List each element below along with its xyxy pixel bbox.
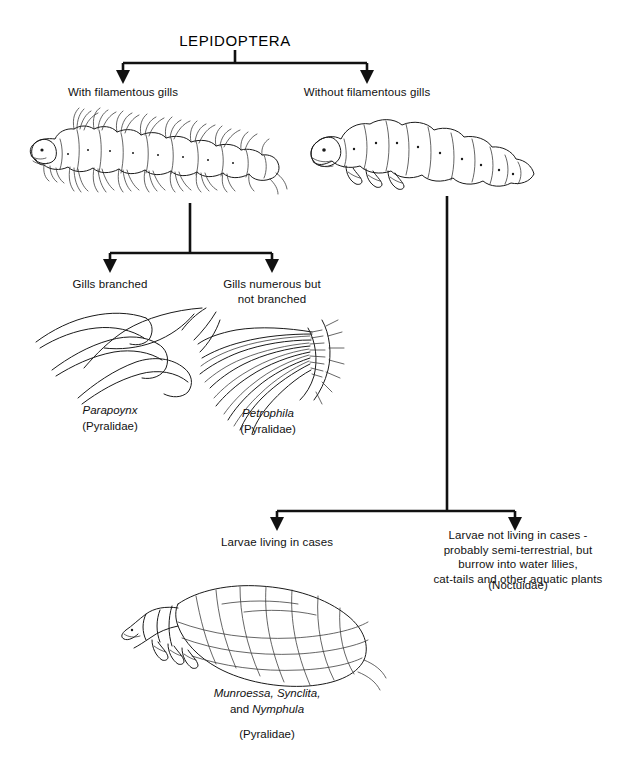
- arrowhead-right-1: [360, 70, 374, 84]
- larva-in-leaf-case-illustration: [122, 586, 386, 690]
- genera-munroessa-synclita: Munroessa, Synclita,: [214, 687, 321, 699]
- arrowhead-right-2: [265, 259, 279, 273]
- caption-parapoynx: Parapoynx (Pyralidae): [42, 403, 178, 434]
- page-title: LEPIDOPTERA: [155, 32, 315, 49]
- branch-lines-level-1: [116, 50, 374, 84]
- key-diagram-canvas: [0, 0, 631, 764]
- family-noctuidae: (Noctuidae): [448, 578, 588, 594]
- family-pyralidae-cases: (Pyralidae): [187, 727, 347, 743]
- conjunction-and: and: [230, 703, 252, 715]
- branch-label-larvae-living-in-cases: Larvae living in cases: [202, 535, 352, 550]
- arrowhead-left-2: [103, 259, 117, 273]
- arrowhead-left-3: [270, 517, 284, 531]
- smooth-caterpillar-illustration: [311, 120, 534, 190]
- genus-petrophila: Petrophila: [242, 407, 294, 419]
- branch-label-gills-numerous-not-branched: Gills numerous but not branched: [207, 277, 337, 306]
- branch-label-without-filamentous-gills: Without filamentous gills: [292, 85, 442, 100]
- branch-label-gills-branched: Gills branched: [45, 277, 175, 292]
- gilled-caterpillar-illustration: [30, 108, 287, 194]
- branch-label-with-filamentous-gills: With filamentous gills: [48, 85, 198, 100]
- family-petrophila: (Pyralidae): [240, 423, 296, 435]
- caption-petrophila: Petrophila (Pyralidae): [198, 406, 338, 437]
- genus-parapoynx: Parapoynx: [83, 404, 138, 416]
- branch-lines-level-3: [270, 196, 522, 531]
- branch-lines-level-2: [103, 203, 279, 273]
- arrowhead-left-1: [116, 70, 130, 84]
- family-parapoynx: (Pyralidae): [82, 420, 138, 432]
- branched-gill-detail-illustration: [36, 308, 220, 404]
- caption-case-making-genera: Munroessa, Synclita, and Nymphula: [172, 686, 362, 717]
- genus-nymphula: Nymphula: [252, 703, 304, 715]
